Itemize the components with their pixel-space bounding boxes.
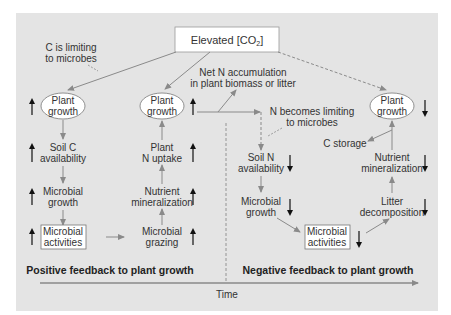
node-plant-n-uptake: Plant N uptake [142,142,182,164]
annotation-net-n-accumulation: Net N accumulation in plant biomass or l… [190,67,296,89]
svg-text:activities: activities [44,237,82,248]
svg-text:Net N accumulation: Net N accumulation [199,67,286,78]
node-litter-decomposition: Litter decomposition [360,196,424,218]
node-plant-growth-center: Plant growth [140,93,184,119]
svg-text:growth: growth [246,207,276,218]
svg-text:C storage: C storage [323,138,367,149]
svg-text:activities: activities [308,237,346,248]
node-soil-n-availability: Soil N availability [238,152,284,174]
svg-text:growth: growth [377,106,407,117]
svg-text:Microbial: Microbial [43,186,83,197]
svg-text:Soil N: Soil N [248,152,275,163]
svg-text:Plant: Plant [151,95,174,106]
annotation-c-limiting: C is limiting to microbes [45,42,98,71]
node-microbial-activities-right: Microbial activities [305,225,350,249]
svg-text:in plant biomass or litter: in plant biomass or litter [190,78,296,89]
svg-text:C is limiting: C is limiting [45,42,96,53]
svg-text:Microbial: Microbial [307,226,347,237]
svg-text:availability: availability [238,163,284,174]
svg-text:Plant: Plant [52,95,75,106]
svg-text:Elevated [CO2]: Elevated [CO2] [191,34,263,48]
svg-text:Litter: Litter [381,196,404,207]
svg-text:Nutrient: Nutrient [144,186,179,197]
trend-up-icons [32,101,193,245]
node-c-storage: C storage [323,138,367,149]
svg-text:decomposition: decomposition [360,207,424,218]
node-microbial-growth-right: Microbial growth [241,196,281,218]
svg-text:growth: growth [48,197,78,208]
node-plant-growth-right: Plant growth [370,93,414,119]
svg-text:to microbes: to microbes [45,53,97,64]
node-plant-growth-left: Plant growth [41,93,85,119]
svg-text:to microbes: to microbes [286,117,338,128]
svg-text:Nutrient: Nutrient [374,152,409,163]
svg-text:N uptake: N uptake [142,153,182,164]
node-microbial-grazing: Microbial grazing [142,226,182,248]
positive-feedback-label: Positive feedback to plant growth [26,264,193,276]
svg-text:grazing: grazing [146,237,179,248]
node-soil-c-availability: Soil C availability [40,142,86,164]
svg-text:availability: availability [40,153,86,164]
annotation-n-limiting: N becomes limiting to microbes [268,106,354,136]
arrow-to-net-n [218,90,236,112]
svg-text:Plant: Plant [151,142,174,153]
svg-text:Soil C: Soil C [50,142,77,153]
node-microbial-activities-left: Microbial activities [41,225,86,249]
svg-text:Microbial: Microbial [142,226,182,237]
node-nutrient-mineralization-right: Nutrient mineralization [361,152,423,174]
feedback-diagram: Elevated [CO2] C is limiting to microbes… [0,0,451,315]
svg-text:Plant: Plant [381,95,404,106]
svg-text:growth: growth [48,106,78,117]
elevated-co2-box: Elevated [CO2] [175,27,279,52]
time-axis-label: Time [216,289,238,300]
node-microbial-growth-left: Microbial growth [43,186,83,208]
svg-text:growth: growth [147,106,177,117]
svg-text:mineralization: mineralization [131,197,193,208]
svg-text:N becomes limiting: N becomes limiting [270,106,354,117]
node-nutrient-mineralization-left: Nutrient mineralization [131,186,193,208]
svg-text:mineralization: mineralization [361,163,423,174]
negative-feedback-label: Negative feedback to plant growth [243,264,414,276]
svg-text:Microbial: Microbial [241,196,281,207]
svg-text:Microbial: Microbial [43,226,83,237]
